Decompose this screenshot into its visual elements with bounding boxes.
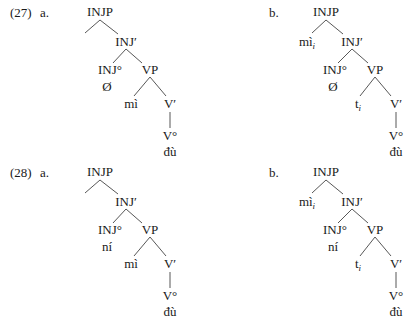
word-verb: đù <box>164 305 177 319</box>
trace-index: i <box>359 103 362 113</box>
spec-text: mì <box>299 34 313 49</box>
word-vp-spec: mì <box>124 257 138 271</box>
node-vp: VP <box>142 63 159 77</box>
node-v-head: V° <box>389 289 404 303</box>
word-inj: Ø <box>328 80 337 94</box>
node-v-bar: V′ <box>164 257 176 271</box>
word-trace: ti <box>355 97 361 115</box>
node-injp: INJP <box>87 165 113 179</box>
word-spec: mìi <box>299 35 315 53</box>
node-inj-bar: INJ′ <box>115 195 137 209</box>
word-inj: ní <box>328 240 338 254</box>
node-v-head: V° <box>163 289 178 303</box>
node-inj-head: INJ° <box>323 223 347 237</box>
word-verb: đù <box>390 305 403 319</box>
node-v-bar: V′ <box>164 97 176 111</box>
spec-text: mì <box>299 194 313 209</box>
word-trace: ti <box>355 257 361 275</box>
spec-index: i <box>313 201 316 211</box>
node-inj-head: INJ° <box>98 223 122 237</box>
word-inj: Ø <box>102 80 111 94</box>
node-inj-bar: INJ′ <box>341 195 363 209</box>
node-v-bar: V′ <box>390 97 402 111</box>
node-injp: INJP <box>87 5 113 19</box>
word-verb: đù <box>164 145 177 159</box>
node-inj-head: INJ° <box>98 63 122 77</box>
node-inj-bar: INJ′ <box>115 35 137 49</box>
word-verb: đù <box>390 145 403 159</box>
word-vp-spec: mì <box>124 97 138 111</box>
node-inj-bar: INJ′ <box>341 35 363 49</box>
node-v-head: V° <box>163 129 178 143</box>
node-vp: VP <box>367 63 384 77</box>
node-v-bar: V′ <box>390 257 402 271</box>
node-injp: INJP <box>313 5 339 19</box>
node-v-head: V° <box>389 129 404 143</box>
trace-index: i <box>359 263 362 273</box>
word-spec: mìi <box>299 195 315 213</box>
node-inj-head: INJ° <box>323 63 347 77</box>
spec-index: i <box>313 41 316 51</box>
word-inj: ní <box>102 240 112 254</box>
node-injp: INJP <box>313 165 339 179</box>
node-vp: VP <box>142 223 159 237</box>
node-vp: VP <box>367 223 384 237</box>
